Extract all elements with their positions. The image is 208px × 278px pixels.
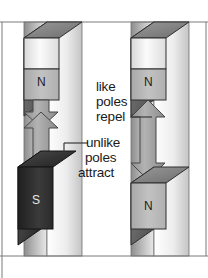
pole-label-left-top: N: [37, 76, 45, 88]
annotation-repel-line2: poles: [96, 95, 127, 109]
annotation-attract: unlike poles attract: [86, 136, 122, 179]
annotation-attract-line3: attract: [78, 166, 114, 180]
pole-label-left-bottom: S: [32, 194, 40, 206]
pole-label-right-bottom: N: [144, 200, 152, 212]
pole-label-right-top: N: [144, 76, 152, 88]
magnet-diagram-figure: N S N N like poles repel unlike poles at…: [0, 0, 208, 278]
annotation-repel-line3: repel: [96, 110, 127, 124]
annotation-attract-line1: unlike: [86, 136, 122, 150]
annotation-repel-line1: like: [96, 80, 127, 94]
annotation-attract-line2: poles: [85, 151, 121, 165]
annotation-repel: like poles repel: [96, 80, 127, 123]
